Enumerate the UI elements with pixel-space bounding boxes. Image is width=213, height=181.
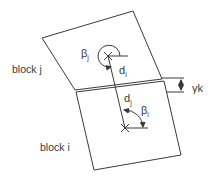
d-i-label: di: [119, 64, 127, 78]
beta-i-label: βi: [141, 104, 149, 118]
gamma-k-label: γk: [192, 82, 204, 94]
beta-j-label: βj: [81, 47, 89, 62]
block-contact-diagram: block j block i βj di dj βi γk: [0, 0, 213, 181]
block-j-label: block j: [12, 63, 42, 75]
diagram-svg: block j block i βj di dj βi γk: [0, 0, 213, 181]
block-i-label: block i: [40, 141, 70, 153]
d-j-label: dj: [124, 92, 132, 107]
block-j-shape: [42, 11, 162, 90]
